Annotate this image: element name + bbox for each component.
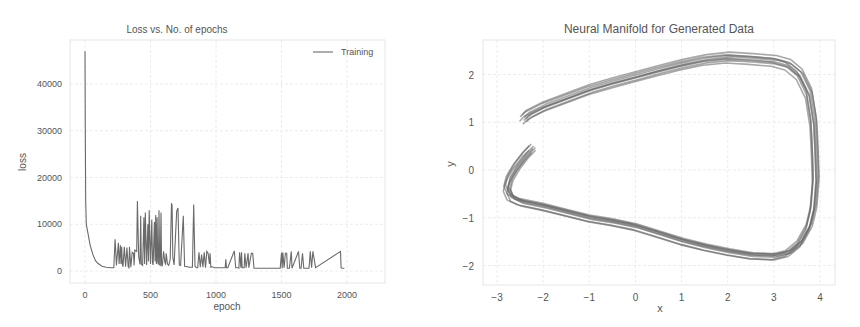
x-tick-label: 0 <box>633 292 639 303</box>
y-tick-label: 20000 <box>37 173 62 183</box>
x-tick-label: 1000 <box>206 290 226 300</box>
y-tick-label: 0 <box>57 266 62 276</box>
x-tick-label: 0 <box>82 290 87 300</box>
manifold-trajectory <box>503 52 819 260</box>
x-tick-label: 2 <box>725 292 731 303</box>
grid-lines <box>70 40 385 283</box>
x-tick-label: 3 <box>771 292 777 303</box>
y-axis-label: y <box>444 161 456 167</box>
grid-lines <box>483 40 835 285</box>
axis-ticks: −3−2−101234−2−1012 <box>463 70 824 304</box>
trajectory-line <box>508 59 813 256</box>
trajectory-line <box>510 57 819 256</box>
plot-frame <box>70 40 385 283</box>
x-tick-label: 4 <box>817 292 823 303</box>
trajectory-line <box>508 55 817 254</box>
x-tick-label: −3 <box>491 292 503 303</box>
trajectory-line <box>504 55 813 254</box>
y-tick-label: 40000 <box>37 79 62 89</box>
x-axis-label: epoch <box>213 301 240 312</box>
legend: Training <box>313 47 373 57</box>
x-tick-label: −1 <box>584 292 596 303</box>
trajectory-line <box>503 58 816 260</box>
y-tick-label: 0 <box>468 165 474 176</box>
y-tick-label: 2 <box>468 70 474 81</box>
y-tick-label: −2 <box>463 261 475 272</box>
y-tick-label: −1 <box>463 213 475 224</box>
x-tick-label: 2000 <box>337 290 357 300</box>
y-tick-label: 30000 <box>37 126 62 136</box>
x-tick-label: −2 <box>537 292 549 303</box>
x-tick-label: 1 <box>679 292 685 303</box>
loss-chart-panel: Loss vs. No. of epochs 05001000150020000… <box>0 0 430 327</box>
y-tick-label: 10000 <box>37 219 62 229</box>
chart-title: Neural Manifold for Generated Data <box>564 22 754 36</box>
y-tick-label: 1 <box>468 117 474 128</box>
y-axis-label: loss <box>17 153 28 171</box>
plot-frame <box>483 40 835 285</box>
legend-label-training: Training <box>341 47 373 57</box>
chart-title: Loss vs. No. of epochs <box>126 24 227 35</box>
x-tick-label: 1500 <box>271 290 291 300</box>
loss-chart: Loss vs. No. of epochs 05001000150020000… <box>0 0 430 327</box>
x-axis-label: x <box>657 302 663 314</box>
trajectory-line <box>506 52 819 254</box>
manifold-chart: Neural Manifold for Generated Data −3−2−… <box>430 0 860 327</box>
manifold-chart-panel: Neural Manifold for Generated Data −3−2−… <box>430 0 860 327</box>
x-tick-label: 500 <box>143 290 158 300</box>
trajectory-line <box>511 61 817 258</box>
